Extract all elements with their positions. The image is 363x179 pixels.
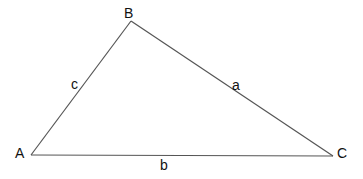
side-b-edge [31,155,333,156]
side-b-label: b [160,157,168,173]
side-a-label: a [232,77,240,93]
side-c-label: c [71,76,78,92]
triangle-diagram: A B C a b c [0,0,363,179]
side-c-edge [31,21,131,155]
vertex-b-label: B [124,5,133,21]
vertex-a-label: A [15,145,25,161]
vertex-c-label: C [337,145,347,161]
